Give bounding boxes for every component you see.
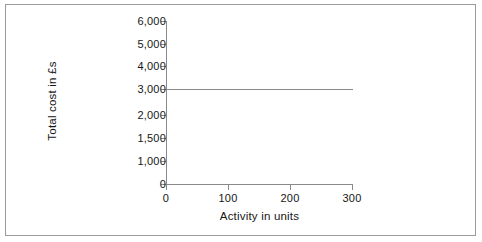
y-axis-title: Total cost in £s	[46, 31, 58, 171]
y-tick-label: 1,500	[114, 133, 166, 144]
y-tick-label: 3,000	[114, 84, 166, 95]
plot-area: 6,000 5,000 4,000 3,000 2,000 1,500 1,00…	[0, 0, 482, 242]
y-tick-label: 5,000	[114, 39, 166, 50]
y-tick-label: 0	[114, 179, 166, 190]
y-tick-label: 6,000	[114, 16, 166, 27]
fixed-cost-line	[166, 89, 353, 90]
x-tick-label: 0	[146, 192, 186, 204]
x-tick-mark	[290, 185, 291, 190]
x-axis-line	[166, 184, 353, 185]
y-tick-label: 1,000	[114, 156, 166, 167]
chart-figure: 6,000 5,000 4,000 3,000 2,000 1,500 1,00…	[0, 0, 482, 242]
y-tick-label: 2,000	[114, 110, 166, 121]
x-tick-label: 200	[270, 192, 310, 204]
x-axis-title: Activity in units	[166, 210, 353, 222]
x-tick-mark	[166, 185, 167, 190]
y-tick-label: 4,000	[114, 61, 166, 72]
x-tick-mark	[228, 185, 229, 190]
y-axis-line	[166, 21, 167, 185]
x-tick-label: 300	[332, 192, 372, 204]
x-tick-label: 100	[208, 192, 248, 204]
x-tick-mark	[352, 185, 353, 190]
